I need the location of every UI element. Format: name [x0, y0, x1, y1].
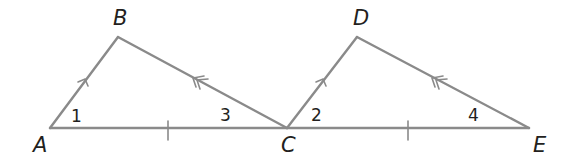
geometry-diagram: A B C D E 1 2 3 4 — [0, 0, 569, 167]
vertex-label-d: D — [353, 6, 369, 30]
vertex-label-c: C — [281, 133, 296, 157]
angle-label-3: 3 — [220, 105, 231, 125]
vertex-label-b: B — [113, 6, 127, 30]
segment-ab — [50, 37, 118, 128]
segment-bc — [118, 37, 287, 128]
angle-label-2: 2 — [311, 105, 322, 125]
vertex-label-e: E — [533, 133, 547, 157]
segment-de — [357, 37, 529, 128]
angle-label-4: 4 — [468, 105, 479, 125]
segment-cd — [287, 37, 357, 128]
vertex-label-a: A — [31, 133, 47, 157]
angle-label-1: 1 — [71, 106, 82, 126]
